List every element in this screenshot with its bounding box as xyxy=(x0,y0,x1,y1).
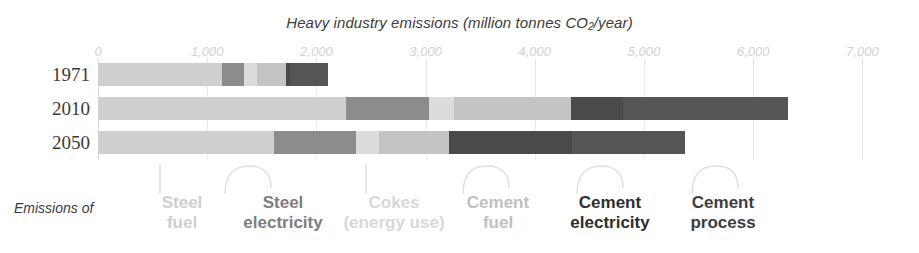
bar-segment xyxy=(449,131,572,154)
bar-segment xyxy=(454,97,571,120)
bar-2050 xyxy=(98,131,685,154)
bar-segment xyxy=(222,63,244,86)
bar-segment xyxy=(257,63,285,86)
legend-item-line1: Cokes xyxy=(368,193,419,212)
x-tick-label: 5,000 xyxy=(628,44,661,59)
x-tick-label: 1,000 xyxy=(191,44,224,59)
y-axis-label-2010: 2010 xyxy=(28,98,90,120)
bar-segment xyxy=(379,131,449,154)
bar-segment xyxy=(572,131,685,154)
x-tick-label: 4,000 xyxy=(519,44,552,59)
bar-segment xyxy=(98,63,222,86)
bar-segment xyxy=(98,131,274,154)
bar-segment xyxy=(429,97,454,120)
x-tick-label: 6,000 xyxy=(737,44,770,59)
legend-item-cement-process[interactable]: Cementprocess xyxy=(653,193,793,233)
x-tick-mark xyxy=(535,58,536,64)
bar-segment xyxy=(356,131,379,154)
bar-segment xyxy=(98,97,346,120)
x-tick-label: 2,000 xyxy=(300,44,333,59)
x-tick-label: 0 xyxy=(94,44,101,59)
chart-root: Heavy industry emissions (million tonnes… xyxy=(0,0,919,253)
legend-item-line1: Steel xyxy=(162,193,203,212)
bar-2010 xyxy=(98,97,788,120)
bar-segment xyxy=(274,131,356,154)
y-axis-label-1971: 1971 xyxy=(28,64,90,86)
bar-segment xyxy=(244,63,257,86)
bar-segment xyxy=(623,97,788,120)
legend-item-line1: Cement xyxy=(692,193,754,212)
legend-item-line1: Cement xyxy=(467,193,529,212)
chart-title: Heavy industry emissions (million tonnes… xyxy=(0,14,919,32)
x-tick-mark xyxy=(753,58,754,64)
x-tick-mark xyxy=(644,58,645,64)
gridline xyxy=(862,60,863,160)
legend-item-line2: process xyxy=(653,213,793,233)
chart-title-text: Heavy industry emissions (million tonnes… xyxy=(286,14,633,31)
bar-1971 xyxy=(98,63,328,86)
legend-item-line1: Cement xyxy=(579,193,641,212)
x-tick-label: 3,000 xyxy=(409,44,442,59)
x-tick-mark xyxy=(426,58,427,64)
bar-segment xyxy=(290,63,328,86)
legend-intro: Emissions of xyxy=(14,200,93,216)
bar-segment xyxy=(571,97,623,120)
bar-segment xyxy=(346,97,429,120)
x-tick-label: 7,000 xyxy=(846,44,879,59)
y-axis-label-2050: 2050 xyxy=(28,132,90,154)
legend-item-line1: Steel xyxy=(263,193,304,212)
x-tick-mark xyxy=(862,58,863,64)
